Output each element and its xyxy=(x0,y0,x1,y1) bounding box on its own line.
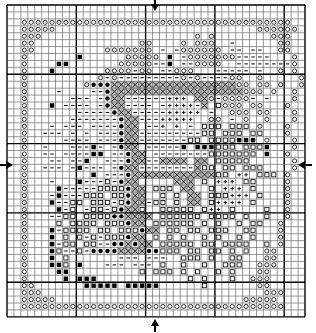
left-center-arrow-stem xyxy=(0,164,7,166)
cross-stitch-chart xyxy=(6,4,306,322)
pattern-grid xyxy=(6,4,306,318)
left-center-arrow-icon xyxy=(6,161,13,169)
bottom-center-arrow-stem xyxy=(154,324,156,332)
top-center-arrow-stem xyxy=(154,0,156,6)
right-center-arrow-stem xyxy=(304,164,312,166)
